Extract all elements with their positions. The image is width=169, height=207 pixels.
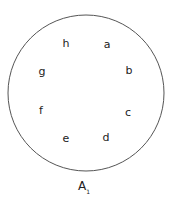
point-label-f: f <box>39 105 43 116</box>
point-label-c: c <box>125 107 131 118</box>
point-label-b: b <box>126 65 133 76</box>
point-label-h: h <box>63 38 70 49</box>
point-label-d: d <box>103 132 110 143</box>
point-label-g: g <box>39 66 46 77</box>
boundary-circle <box>8 15 164 171</box>
circle-diagram <box>0 0 169 207</box>
caption-subscript: 1 <box>86 188 90 195</box>
point-label-e: e <box>63 133 70 144</box>
point-label-a: a <box>104 39 111 50</box>
diagram-caption: A1 <box>78 179 90 194</box>
caption-main: A <box>78 179 86 193</box>
